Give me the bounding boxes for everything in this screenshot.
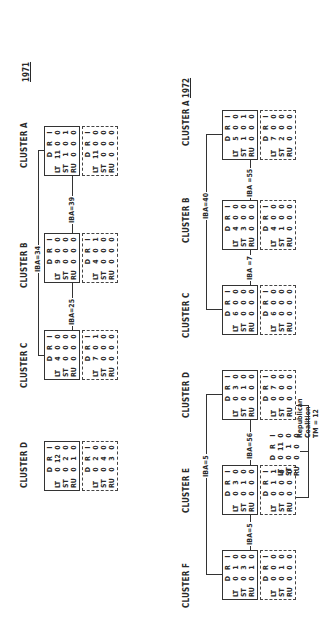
row-header: RU xyxy=(70,267,78,280)
row-header: ST xyxy=(100,160,108,173)
column-header: D xyxy=(84,149,92,160)
matrix-cell: 0 xyxy=(240,371,248,382)
matrix-cell: 0 xyxy=(286,562,294,573)
row-header: LT xyxy=(92,160,100,173)
matrix-cell: 0 xyxy=(293,452,301,463)
matrix-cell: 1 xyxy=(270,477,278,488)
row-header: RU xyxy=(286,499,294,512)
matrix-cell: 0 xyxy=(108,353,116,364)
row-header: RU xyxy=(286,404,294,417)
matrix-cell: 0 xyxy=(240,308,248,319)
matrix-cell: 0 xyxy=(70,127,78,138)
matrix-cell: 2 xyxy=(92,453,100,464)
column-header: I xyxy=(46,331,54,342)
matrix-cell: 12 xyxy=(54,453,62,464)
column-header: R xyxy=(262,562,270,573)
matrix-cell: 4 xyxy=(232,223,240,234)
matrix-cell: 3 xyxy=(232,382,240,393)
matrix-solid: DRILT030ST010RU000 xyxy=(222,465,258,515)
column-header: D xyxy=(46,353,54,364)
row-header: ST xyxy=(62,160,70,173)
matrix-cell: 7 xyxy=(270,133,278,144)
column-header: R xyxy=(262,477,270,488)
matrix-cell: 0 xyxy=(286,308,294,319)
matrix-cell: 0 xyxy=(232,466,240,477)
matrix-cell: 0 xyxy=(248,122,256,133)
matrix-cell: 4 xyxy=(92,256,100,267)
matrix-cell: 1 xyxy=(232,562,240,573)
row-header: RU xyxy=(108,475,116,488)
matrix-cell: 0 xyxy=(100,342,108,353)
matrix-cell: 0 xyxy=(248,551,256,562)
matrix-cell: 0 xyxy=(278,477,286,488)
row-header: RU xyxy=(248,584,256,597)
matrix-cell: 1 xyxy=(285,441,293,452)
row-header: ST xyxy=(278,319,286,332)
row-header: RU xyxy=(108,364,116,377)
row-header: RU xyxy=(70,160,78,173)
matrix-cell: 0 xyxy=(278,297,286,308)
column-header: D xyxy=(262,393,270,404)
iba-label: IBA =55 xyxy=(246,168,254,198)
matrix-cell: 0 xyxy=(270,488,278,499)
row-header: ST xyxy=(278,404,286,417)
matrix-cell: 0 xyxy=(108,127,116,138)
matrix-cell: 0 xyxy=(278,573,286,584)
matrix-cell: 0 xyxy=(286,382,294,393)
matrix-cell: 11 xyxy=(92,149,100,160)
column-header: D xyxy=(262,133,270,144)
matrix-cell: 0 xyxy=(70,138,78,149)
row-header: LT xyxy=(270,584,278,597)
column-header: I xyxy=(84,127,92,138)
cluster-label: CLUSTER B xyxy=(20,242,29,288)
iba-label: IBA=40 xyxy=(202,192,210,220)
column-header: R xyxy=(84,453,92,464)
row-header: ST xyxy=(100,267,108,280)
matrix-cell: 0 xyxy=(248,286,256,297)
matrix-cell: 0 xyxy=(286,223,294,234)
matrix-cell: 0 xyxy=(108,234,116,245)
row-header: LT xyxy=(54,364,62,377)
column-header: D xyxy=(262,223,270,234)
column-header: D xyxy=(224,573,232,584)
column-header: D xyxy=(269,452,277,463)
matrix-dashed: DRILT700ST200RU000 xyxy=(260,110,296,160)
row-header: ST xyxy=(100,475,108,488)
matrix-cell: 0 xyxy=(232,551,240,562)
row-header: ST xyxy=(62,364,70,377)
matrix-dashed: DRILT020ST040RU030 xyxy=(82,441,118,491)
matrix-cell: 0 xyxy=(286,286,294,297)
matrix-cell: 0 xyxy=(278,212,286,223)
matrix-cell: 1 xyxy=(278,223,286,234)
matrix-cell: 3 xyxy=(240,223,248,234)
matrix-cell: 0 xyxy=(232,297,240,308)
matrix-cell: 0 xyxy=(54,342,62,353)
column-header: D xyxy=(262,573,270,584)
cluster-label: CLUSTER D xyxy=(182,372,191,418)
column-header: R xyxy=(224,382,232,393)
link-line xyxy=(206,574,222,575)
matrix-cell: 0 xyxy=(270,393,278,404)
matrix-cell: 0 xyxy=(286,133,294,144)
column-header: I xyxy=(46,442,54,453)
row-header: LT xyxy=(54,475,62,488)
iba-label: IBA=5 xyxy=(202,454,210,478)
matrix-cell: 0 xyxy=(70,256,78,267)
matrix-cell: 0 xyxy=(62,342,70,353)
matrix-cell: 0 xyxy=(70,464,78,475)
matrix-cell: 0 xyxy=(232,286,240,297)
column-header: D xyxy=(46,149,54,160)
matrix-cell: 0 xyxy=(286,393,294,404)
row-header: LT xyxy=(232,319,240,332)
link-line xyxy=(206,394,207,575)
row-header: LT xyxy=(92,267,100,280)
cluster-label: CLUSTER E xyxy=(182,468,191,513)
matrix-cell: 2 xyxy=(62,453,70,464)
matrix-cell: 0 xyxy=(70,342,78,353)
matrix-cell: 0 xyxy=(92,127,100,138)
column-header: R xyxy=(262,212,270,223)
column-header: R xyxy=(46,245,54,256)
matrix-dashed: DRILT000ST010RU000 xyxy=(260,550,296,600)
matrix-cell: 0 xyxy=(54,442,62,453)
row-header: RU xyxy=(70,475,78,488)
